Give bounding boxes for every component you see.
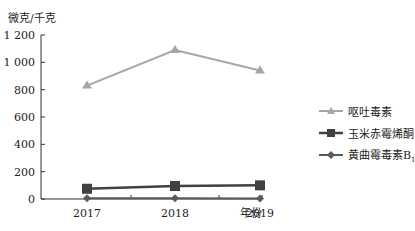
- data-point: [170, 45, 180, 53]
- data-point: [256, 195, 264, 203]
- diamond-marker-icon: [318, 150, 344, 160]
- legend-item-zearalenone: 玉米赤霉烯酮: [318, 122, 415, 144]
- data-point: [171, 194, 179, 202]
- data-point: [170, 181, 180, 191]
- legend-item-vomitoxin: 呕吐毒素: [318, 100, 415, 122]
- y-axis-unit-label: 微克/千克: [8, 11, 56, 25]
- x-axis-unit-label: 年份: [240, 206, 262, 220]
- legend-item-aflatoxin-b1: 黄曲霉毒素B1: [318, 144, 415, 166]
- legend-label: 黄曲霉毒素B1: [348, 146, 415, 164]
- series-line: [82, 45, 265, 89]
- data-point: [82, 184, 92, 194]
- square-marker-icon: [318, 128, 344, 138]
- axes: 02004006008001 0001 200201720182019: [4, 29, 275, 220]
- y-tick-label: 600: [14, 111, 35, 124]
- series-group: [82, 45, 265, 203]
- y-tick-label: 800: [14, 84, 35, 97]
- data-point: [255, 180, 265, 190]
- data-point: [83, 194, 91, 202]
- y-tick-label: 400: [14, 138, 35, 151]
- series-line: [83, 194, 264, 202]
- x-tick-label: 2017: [73, 207, 101, 220]
- y-tick-label: 200: [14, 166, 35, 179]
- legend: 呕吐毒素 玉米赤霉烯酮 黄曲霉毒素B1: [318, 100, 415, 166]
- triangle-marker-icon: [318, 106, 344, 116]
- y-tick-label: 1 000: [4, 56, 36, 69]
- legend-label: 玉米赤霉烯酮: [348, 125, 414, 141]
- y-tick-label: 0: [28, 193, 35, 206]
- legend-label: 呕吐毒素: [348, 103, 392, 119]
- series-line: [82, 180, 265, 193]
- y-tick-label: 1 200: [4, 29, 36, 42]
- x-tick-label: 2018: [161, 207, 189, 220]
